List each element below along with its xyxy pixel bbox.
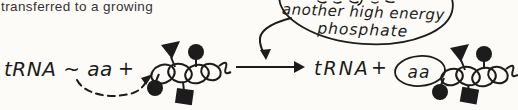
amino-acid-circle-icon xyxy=(188,44,204,60)
amino-acid-triangle-icon xyxy=(450,44,469,62)
trna-amino-acid-transfer-diagram: transferred to a growing another high en… xyxy=(0,0,518,110)
caption-text: transferred to a growing xyxy=(1,0,153,14)
amino-acid-circle-icon xyxy=(476,46,492,62)
coil-loops xyxy=(439,64,518,89)
growing-polypeptide-coil-left xyxy=(147,41,231,105)
amino-acid-square-icon xyxy=(175,88,194,105)
phosphate-arrowhead-icon xyxy=(260,49,271,60)
circled-amino-acid: aa xyxy=(394,54,446,87)
scanned-diagram-page: transferred to a growing another high en… xyxy=(0,0,518,110)
product-label: tRNA xyxy=(314,57,370,79)
speech-bubble: another high energy phosphate xyxy=(276,0,456,50)
reaction-arrow xyxy=(236,61,305,73)
amino-acid-triangle-icon xyxy=(161,41,180,59)
plus-sign-right: + xyxy=(371,56,387,78)
circled-amino-acid-label: aa xyxy=(408,62,431,82)
amino-acid-circle-icon xyxy=(432,84,448,100)
incoming-amino-acid-circle-icon xyxy=(147,80,163,96)
phosphate-arrow xyxy=(260,18,291,60)
reaction-arrowhead-icon xyxy=(294,61,305,73)
plus-sign-left: + xyxy=(118,57,134,79)
amino-acid-square-icon xyxy=(460,87,479,105)
bubble-text-line2: phosphate xyxy=(316,19,409,40)
reactant-label: tRNA ~ aa xyxy=(4,57,113,81)
